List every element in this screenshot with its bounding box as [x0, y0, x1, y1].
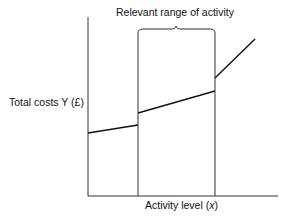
x-axis-label: Activity level (x): [145, 199, 218, 211]
range-brace: [138, 26, 215, 33]
x-label-prefix: Activity level (: [145, 199, 209, 211]
cost-segment-2: [138, 91, 215, 113]
y-axis-label: Total costs Y (£): [9, 96, 84, 108]
cost-diagram: [0, 0, 283, 219]
chart-title: Relevant range of activity: [116, 6, 234, 18]
x-label-suffix: ): [214, 199, 218, 211]
cost-segment-3: [215, 39, 255, 78]
cost-segment-1: [88, 125, 138, 133]
